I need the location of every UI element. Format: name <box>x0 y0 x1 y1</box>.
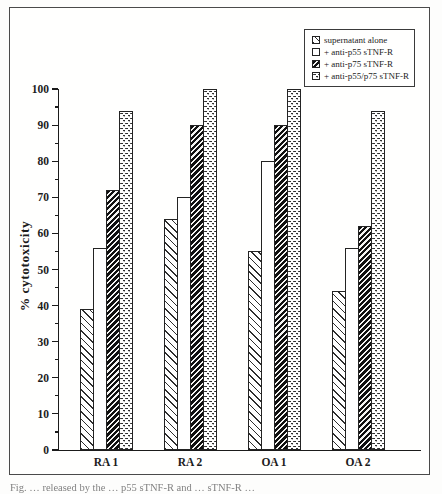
y-axis-minor-tick <box>55 143 58 144</box>
y-axis-major-tick <box>52 125 58 126</box>
y-axis-tick-label: 70 <box>13 191 49 203</box>
y-axis-tick-label: 0 <box>13 444 49 456</box>
y-axis-major-tick <box>52 197 58 198</box>
legend-label-anti-p75-stnf-r: + anti-p75 sTNF-R <box>324 59 393 69</box>
bar-oa-1-anti-p55-stnf-r <box>261 161 275 450</box>
y-axis-tick-label: 50 <box>13 264 49 276</box>
x-category-label-ra-1: RA 1 <box>76 456 136 468</box>
y-axis-minor-tick <box>55 395 58 396</box>
bar-oa-1-anti-p55-p75-stnf-r <box>287 89 301 450</box>
y-axis-major-tick <box>52 413 58 414</box>
y-axis-minor-tick <box>55 287 58 288</box>
legend-item-anti-p55-p75-stnf-r: + anti-p55/p75 sTNF-R <box>312 70 410 82</box>
y-axis-major-tick <box>52 161 58 162</box>
bar-ra-1-supernatant-alone <box>80 309 94 450</box>
bar-ra-2-anti-p55-p75-stnf-r <box>203 89 217 450</box>
legend-item-anti-p75-stnf-r: + anti-p75 sTNF-R <box>312 58 410 70</box>
y-axis-minor-tick <box>55 323 58 324</box>
y-axis-tick-label: 90 <box>13 119 49 131</box>
y-axis-major-tick <box>52 233 58 234</box>
bar-ra-2-anti-p75-stnf-r <box>190 125 204 450</box>
bar-ra-1-anti-p55-stnf-r <box>93 248 107 450</box>
bar-oa-2-anti-p55-stnf-r <box>345 248 359 450</box>
x-category-label-oa-1: OA 1 <box>244 456 304 468</box>
legend: supernatant alone+ anti-p55 sTNF-R+ anti… <box>304 29 415 87</box>
bar-oa-1-supernatant-alone <box>248 251 262 450</box>
y-axis-tick-label: 40 <box>13 300 49 312</box>
x-category-label-ra-2: RA 2 <box>160 456 220 468</box>
y-axis-minor-tick <box>55 251 58 252</box>
bar-ra-2-anti-p55-stnf-r <box>177 197 191 450</box>
y-axis-minor-tick <box>55 359 58 360</box>
y-axis-major-tick <box>52 305 58 306</box>
y-axis-major-tick <box>52 449 58 450</box>
y-axis-tick-label: 30 <box>13 336 49 348</box>
legend-item-supernatant-alone: supernatant alone <box>312 34 410 46</box>
legend-swatch-supernatant-alone <box>312 36 320 44</box>
legend-swatch-anti-p55-p75-stnf-r <box>312 72 320 80</box>
y-axis-major-tick <box>52 341 58 342</box>
x-category-label-oa-2: OA 2 <box>328 456 388 468</box>
y-axis-tick-label: 20 <box>13 372 49 384</box>
bar-oa-1-anti-p75-stnf-r <box>274 125 288 450</box>
legend-swatch-anti-p55-stnf-r <box>312 48 320 56</box>
bar-oa-2-anti-p55-p75-stnf-r <box>371 111 385 450</box>
figure-frame: supernatant alone+ anti-p55 sTNF-R+ anti… <box>9 7 430 475</box>
y-axis-minor-tick <box>55 431 58 432</box>
plot-area: % cytotoxicity 0102030405060708090100RA … <box>58 89 421 451</box>
y-axis-tick-label: 10 <box>13 408 49 420</box>
y-axis-major-tick <box>52 269 58 270</box>
y-axis-minor-tick <box>55 106 58 107</box>
figure-caption: Fig. … released by the … p55 sTNF-R and … <box>10 482 440 493</box>
y-axis-tick-label: 60 <box>13 227 49 239</box>
legend-label-anti-p55-stnf-r: + anti-p55 sTNF-R <box>324 47 393 57</box>
y-axis-tick-label: 100 <box>13 83 49 95</box>
y-axis-major-tick <box>52 88 58 89</box>
bar-oa-2-anti-p75-stnf-r <box>358 226 372 450</box>
y-axis-tick-label: 80 <box>13 155 49 167</box>
y-axis-minor-tick <box>55 179 58 180</box>
y-axis-major-tick <box>52 377 58 378</box>
legend-swatch-anti-p75-stnf-r <box>312 60 320 68</box>
bar-ra-1-anti-p55-p75-stnf-r <box>119 111 133 450</box>
bar-oa-2-supernatant-alone <box>332 291 346 450</box>
legend-label-supernatant-alone: supernatant alone <box>324 35 387 45</box>
y-axis-minor-tick <box>55 215 58 216</box>
legend-item-anti-p55-stnf-r: + anti-p55 sTNF-R <box>312 46 410 58</box>
bar-ra-1-anti-p75-stnf-r <box>106 190 120 450</box>
legend-label-anti-p55-p75-stnf-r: + anti-p55/p75 sTNF-R <box>324 71 409 81</box>
bar-ra-2-supernatant-alone <box>164 219 178 450</box>
